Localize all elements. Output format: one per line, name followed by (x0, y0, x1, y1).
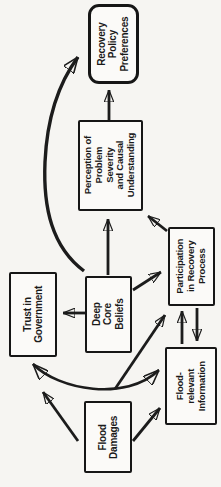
diagram-canvas: Recovery Policy Preferences Perception o… (0, 0, 221, 487)
edge-trust-floodinfo-double-curve (33, 364, 159, 389)
node-flood-relevant-information-label: Flood- relevant Information (175, 361, 207, 411)
node-recovery-policy-preferences-label: Recovery Policy Preferences (96, 16, 130, 71)
node-participation-in-recovery-process-label: Participation in Recovery Process (175, 239, 207, 294)
edge-participation-to-perception (148, 216, 167, 231)
node-trust-in-government: Trust in Government (9, 272, 57, 357)
node-flood-damages-label: Flood Damages (97, 415, 120, 459)
node-perception-problem-severity-label: Perception of Problem Severity and Causa… (83, 133, 137, 197)
node-deep-core-beliefs-label: Deep Core Beliefs (91, 293, 125, 336)
node-flood-damages: Flood Damages (84, 401, 132, 473)
edge-deepcore-to-participation (133, 272, 161, 290)
node-trust-in-government-label: Trust in Government (22, 286, 45, 343)
node-participation-in-recovery-process: Participation in Recovery Process (168, 227, 215, 306)
node-recovery-policy-preferences: Recovery Policy Preferences (88, 4, 139, 84)
edge-flooddamages-to-trust (43, 392, 78, 441)
edge-flooddamages-to-floodinfo (133, 408, 160, 441)
node-deep-core-beliefs: Deep Core Beliefs (85, 276, 132, 353)
node-perception-problem-severity: Perception of Problem Severity and Causa… (78, 120, 143, 211)
node-flood-relevant-information: Flood- relevant Information (165, 347, 217, 425)
